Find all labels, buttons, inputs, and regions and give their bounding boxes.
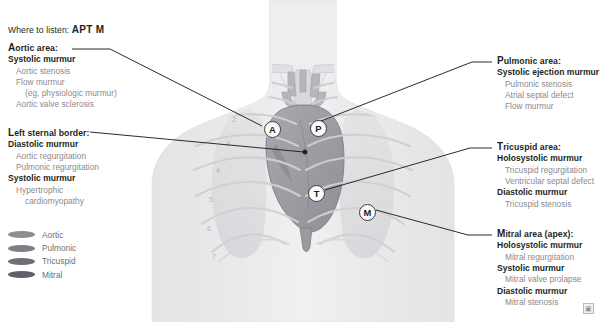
- legend-label-mitral: Mitral: [42, 270, 62, 280]
- mitral-cause-0-0: Mitral regurgitation: [497, 252, 582, 263]
- aortic-cause-0-2: (eg, physiologic murmur): [8, 88, 117, 99]
- mitral-area-title: Mitral area (apex):: [497, 228, 582, 240]
- aortic-murmur-0: Systolic murmur: [8, 54, 117, 65]
- mitral-cause-2-0: Mitral stenosis: [497, 297, 582, 308]
- aortic-cause-0-3: Aortic valve sclerosis: [8, 99, 117, 110]
- svg-text:7: 7: [212, 253, 216, 260]
- pulmonic-area-label-group: Pulmonic area: Systolic ejection murmur …: [497, 55, 599, 112]
- pulmonic-murmur-0: Systolic ejection murmur: [497, 67, 599, 78]
- tricuspid-murmur-1: Diastolic murmur: [497, 187, 594, 198]
- tricuspid-cause-1-0: Tricuspid stenosis: [497, 199, 594, 210]
- legend-swatch-mitral: [8, 271, 35, 278]
- valve-color-legend: Aortic Pulmonic Tricuspid Mitral: [8, 228, 76, 282]
- header-mnemonic: APT M: [72, 24, 105, 35]
- lsb-cause-1-0: Hypertrophic: [8, 185, 99, 196]
- marker-tricuspid[interactable]: T: [308, 185, 325, 202]
- svg-text:3: 3: [226, 140, 230, 147]
- svg-text:6: 6: [207, 225, 211, 232]
- pulmonic-cause-0-1: Atrial septal defect: [497, 90, 599, 101]
- legend-swatch-aortic: [8, 231, 35, 238]
- tricuspid-murmur-0: Holosystolic murmur: [497, 153, 594, 164]
- mitral-murmur-2: Diastolic murmur: [497, 286, 582, 297]
- pulmonic-title-rest: ulmonic area:: [504, 56, 561, 66]
- svg-text:5: 5: [209, 196, 213, 203]
- left-sternal-border-label-group: Left sternal border: Diastolic murmur Ao…: [8, 127, 99, 207]
- lsb-cause-0-1: Pulmonic regurgitation: [8, 162, 99, 173]
- pulmonic-area-title: Pulmonic area:: [497, 55, 599, 67]
- legend-item-tricuspid: Tricuspid: [8, 255, 76, 268]
- tricuspid-cause-0-0: Tricuspid regurgitation: [497, 165, 594, 176]
- svg-text:1: 1: [243, 93, 247, 100]
- svg-text:2: 2: [232, 116, 236, 123]
- aortic-area-title: Aortic area:: [8, 42, 117, 54]
- tricuspid-area-title: Tricuspid area:: [497, 141, 594, 153]
- aortic-cause-0-1: Flow murmur: [8, 77, 117, 88]
- lsb-murmur-0: Diastolic murmur: [8, 139, 99, 150]
- legend-label-pulmonic: Pulmonic: [42, 243, 76, 253]
- mitral-cause-1-0: Mitral valve prolapse: [497, 274, 582, 285]
- legend-label-aortic: Aortic: [42, 230, 63, 240]
- tricuspid-cause-0-1: Ventricular septal defect: [497, 176, 594, 187]
- legend-swatch-tricuspid: [8, 258, 35, 265]
- tricuspid-area-label-group: Tricuspid area: Holosystolic murmur Tric…: [497, 141, 594, 210]
- pulmonic-cause-0-0: Pulmonic stenosis: [497, 79, 599, 90]
- pulmonic-title-capital: P: [497, 55, 504, 66]
- image-placeholder-icon: ▣: [583, 303, 594, 314]
- legend-label-tricuspid: Tricuspid: [42, 256, 76, 266]
- where-to-listen-header: Where to listen: APT M: [8, 24, 104, 35]
- left-sternal-border-title: Left sternal border:: [8, 127, 99, 139]
- legend-item-mitral: Mitral: [8, 268, 76, 281]
- mitral-murmur-1: Systolic murmur: [497, 263, 582, 274]
- marker-mitral[interactable]: M: [359, 204, 376, 221]
- mitral-area-label-group: Mitral area (apex): Holosystolic murmur …: [497, 228, 582, 308]
- legend-swatch-pulmonic: [8, 245, 35, 252]
- marker-pulmonic[interactable]: P: [310, 120, 327, 137]
- lsb-murmur-1: Systolic murmur: [8, 173, 99, 184]
- mitral-murmur-0: Holosystolic murmur: [497, 240, 582, 251]
- lsb-cause-0-0: Aortic regurgitation: [8, 151, 99, 162]
- lsb-cause-1-1: cardiomyopathy: [8, 196, 99, 207]
- lsb-title-rest: eft sternal border:: [14, 128, 89, 138]
- aortic-cause-0-0: Aortic stenosis: [8, 66, 117, 77]
- header-prefix: Where to listen:: [8, 25, 69, 35]
- legend-item-aortic: Aortic: [8, 228, 76, 241]
- murmur-auscultation-figure: 1 2 3 4 5 6 7: [0, 0, 603, 322]
- tricuspid-title-rest: ricuspid area:: [503, 142, 561, 152]
- legend-item-pulmonic: Pulmonic: [8, 241, 76, 254]
- pulmonic-cause-0-2: Flow murmur: [497, 101, 599, 112]
- svg-text:4: 4: [216, 167, 220, 174]
- aortic-area-title-rest: ortic area:: [15, 43, 58, 53]
- marker-aortic[interactable]: A: [264, 121, 281, 138]
- aortic-area-label-group: Aortic area: Systolic murmur Aortic sten…: [8, 42, 117, 111]
- mitral-title-rest: itral area (apex):: [505, 229, 573, 239]
